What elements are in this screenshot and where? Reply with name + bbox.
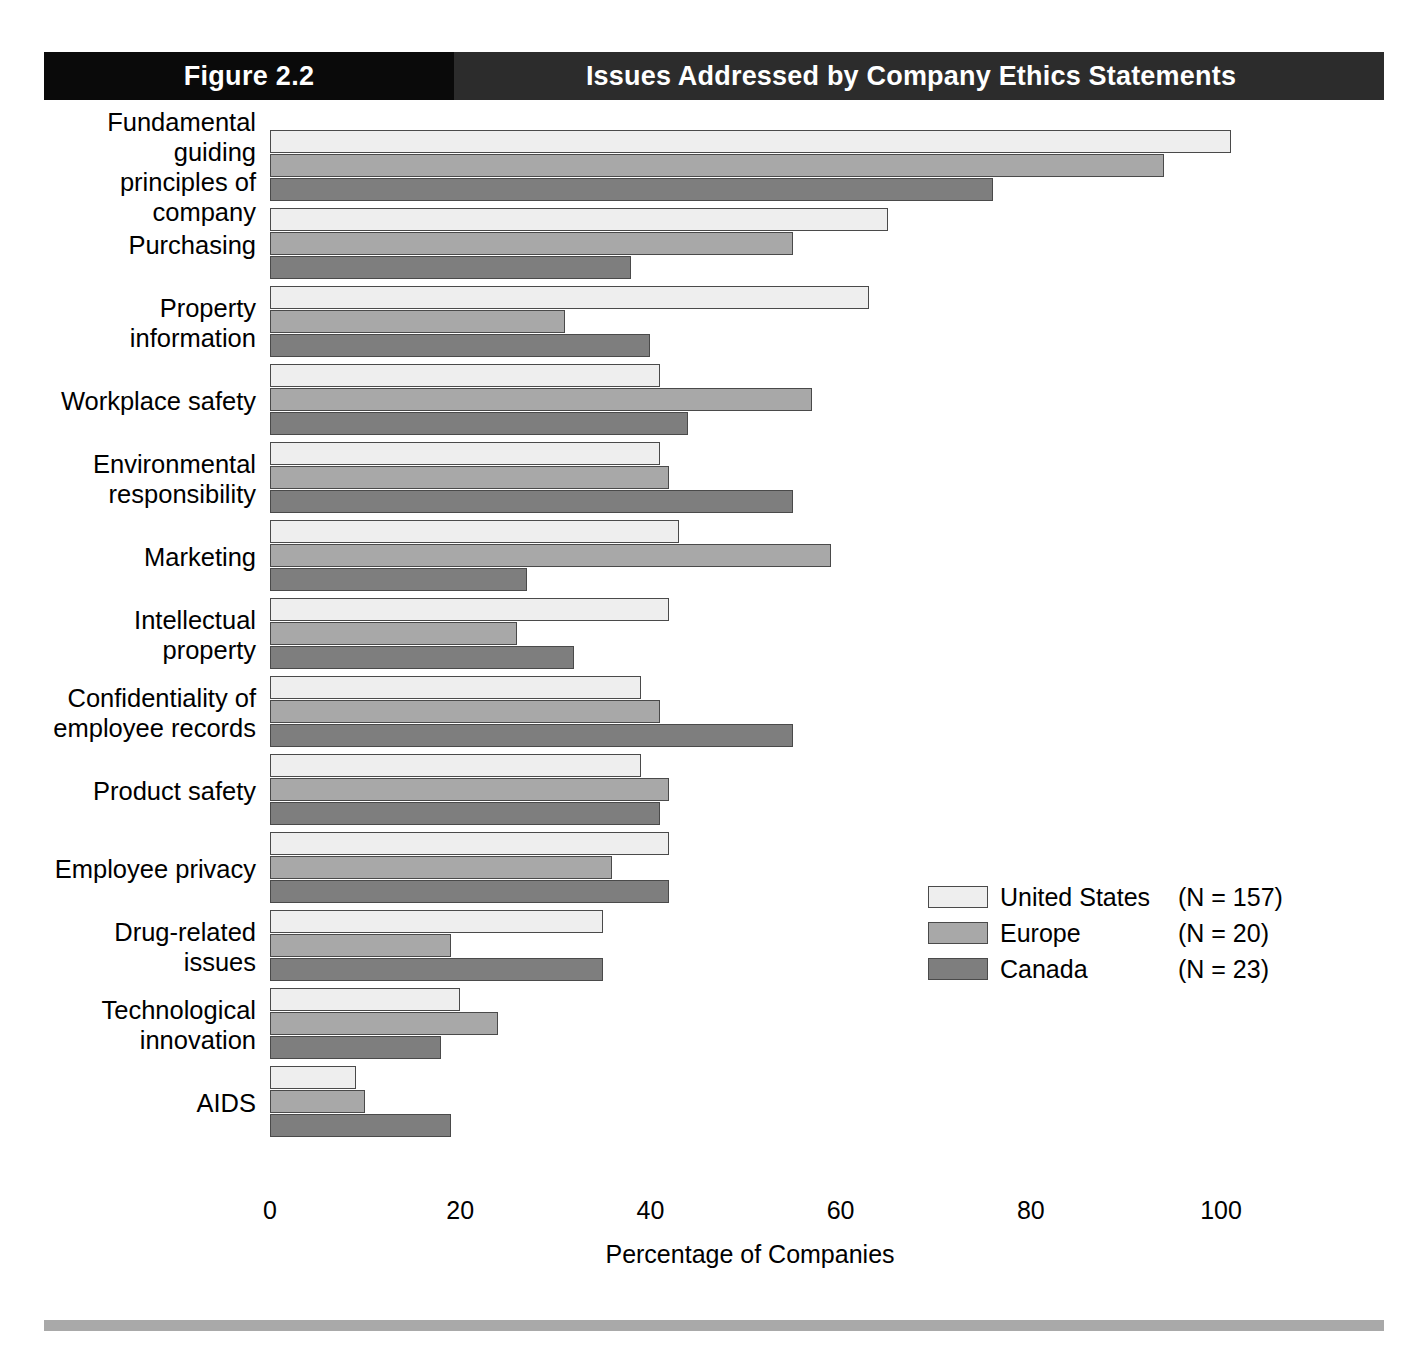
category-label-line: Environmental — [44, 449, 256, 479]
bar — [270, 256, 631, 279]
legend-item: Canada(N = 23) — [928, 952, 1288, 986]
legend-sample-size: (N = 20) — [1178, 919, 1269, 948]
category-label-line: employee records — [44, 713, 256, 743]
bar-group — [270, 128, 1384, 206]
x-tick-label: 80 — [1017, 1196, 1045, 1225]
bar — [270, 910, 603, 933]
bar-group-row: Intellectual property — [44, 596, 1384, 674]
figure-banner: Figure 2.2 Issues Addressed by Company E… — [44, 52, 1384, 100]
x-tick-label: 100 — [1200, 1196, 1242, 1225]
bar — [270, 724, 793, 747]
bar-group-row: Technologicalinnovation — [44, 986, 1384, 1064]
bar-group — [270, 206, 1384, 284]
category-label: Purchasing — [44, 230, 270, 260]
category-label-line: Confidentiality of — [44, 683, 256, 713]
category-label: Confidentiality ofemployee records — [44, 683, 270, 743]
bar-group-row: Workplace safety — [44, 362, 1384, 440]
category-label-line: Property information — [44, 293, 256, 353]
bar-group — [270, 674, 1384, 752]
category-label-line: responsibility — [44, 479, 256, 509]
bar-group-row: Marketing — [44, 518, 1384, 596]
bar — [270, 442, 660, 465]
bar — [270, 856, 612, 879]
bar-group — [270, 284, 1384, 362]
category-label: Technologicalinnovation — [44, 995, 270, 1055]
legend-item: United States(N = 157) — [928, 880, 1288, 914]
bar — [270, 412, 688, 435]
legend-sample-size: (N = 23) — [1178, 955, 1269, 984]
bar-group-row: Confidentiality ofemployee records — [44, 674, 1384, 752]
legend-sample-size: (N = 157) — [1178, 883, 1283, 912]
bar-group — [270, 752, 1384, 830]
bar — [270, 466, 669, 489]
bar — [270, 388, 812, 411]
bar — [270, 934, 451, 957]
category-label-line: Technological — [44, 995, 256, 1025]
bar — [270, 178, 993, 201]
legend-label: Canada — [1000, 955, 1178, 984]
bar — [270, 1114, 451, 1137]
bar — [270, 778, 669, 801]
bar — [270, 1012, 498, 1035]
bar — [270, 988, 460, 1011]
bar-group — [270, 440, 1384, 518]
bar — [270, 490, 793, 513]
bar — [270, 676, 641, 699]
category-label-line: innovation — [44, 1025, 256, 1055]
figure-title: Issues Addressed by Company Ethics State… — [454, 52, 1384, 100]
bar — [270, 832, 669, 855]
category-label: Marketing — [44, 542, 270, 572]
bar — [270, 598, 669, 621]
bar — [270, 544, 831, 567]
x-tick-label: 0 — [263, 1196, 277, 1225]
x-axis-ticks: 020406080100 — [270, 1196, 1230, 1197]
legend-item: Europe(N = 20) — [928, 916, 1288, 950]
bar — [270, 364, 660, 387]
bar — [270, 286, 869, 309]
bar — [270, 1036, 441, 1059]
bar — [270, 208, 888, 231]
bar — [270, 520, 679, 543]
bar-group — [270, 596, 1384, 674]
bar — [270, 700, 660, 723]
category-label-line: Employee privacy — [44, 854, 256, 884]
legend-swatch — [928, 886, 988, 908]
legend-label: Europe — [1000, 919, 1178, 948]
bar — [270, 646, 574, 669]
bar — [270, 622, 517, 645]
bar — [270, 130, 1231, 153]
category-label: Product safety — [44, 776, 270, 806]
category-label-line: Purchasing — [44, 230, 256, 260]
category-label-line: Workplace safety — [44, 386, 256, 416]
category-label: Employee privacy — [44, 854, 270, 884]
chart-legend: United States(N = 157)Europe(N = 20)Cana… — [928, 880, 1288, 988]
bar-rows: Fundamental guidingprinciples of company… — [44, 128, 1384, 1142]
category-label: Workplace safety — [44, 386, 270, 416]
category-label: Environmentalresponsibility — [44, 449, 270, 509]
legend-swatch — [928, 958, 988, 980]
x-axis-label: Percentage of Companies — [270, 1240, 1230, 1269]
bar — [270, 958, 603, 981]
bar — [270, 568, 527, 591]
bar-group-row: Environmentalresponsibility — [44, 440, 1384, 518]
bar-group — [270, 362, 1384, 440]
category-label-line: AIDS — [44, 1088, 256, 1118]
bar — [270, 802, 660, 825]
figure-container: Figure 2.2 Issues Addressed by Company E… — [0, 0, 1428, 1360]
bar — [270, 310, 565, 333]
legend-swatch — [928, 922, 988, 944]
category-label: Property information — [44, 293, 270, 353]
bar-group-row: Property information — [44, 284, 1384, 362]
category-label-line: Intellectual property — [44, 605, 256, 665]
bar — [270, 232, 793, 255]
category-label-line: Drug-related issues — [44, 917, 256, 977]
bar-group-row: Fundamental guidingprinciples of company — [44, 128, 1384, 206]
bar — [270, 880, 669, 903]
legend-label: United States — [1000, 883, 1178, 912]
bar-group-row: AIDS — [44, 1064, 1384, 1142]
x-tick-label: 60 — [827, 1196, 855, 1225]
category-label: Drug-related issues — [44, 917, 270, 977]
bar-group — [270, 1064, 1384, 1142]
bar — [270, 154, 1164, 177]
bar-group-row: Product safety — [44, 752, 1384, 830]
